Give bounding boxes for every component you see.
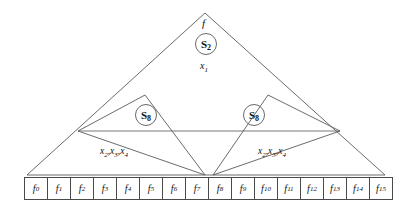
leaf-box: f6 <box>162 177 186 200</box>
root-variable-label: x1 <box>200 61 208 74</box>
leaf-label-subscript: 15 <box>379 185 386 193</box>
leaf-box: f10 <box>254 177 278 200</box>
leaf-label-subscript: 14 <box>356 185 363 193</box>
leaf-box: f2 <box>70 177 94 200</box>
leaf-box-row: f0f1f2f3f4f5f6f7f8f9f10f11f12f13f14f15 <box>24 177 392 200</box>
leaf-label-subscript: 8 <box>220 185 224 193</box>
leaf-label-subscript: 2 <box>82 185 86 193</box>
node-s8-right: S8 <box>243 104 265 126</box>
leaf-label-subscript: 11 <box>287 185 293 193</box>
leaf-box: f8 <box>208 177 232 200</box>
leaf-label-subscript: 10 <box>264 185 271 193</box>
leaf-box: f4 <box>116 177 140 200</box>
leaf-label-subscript: 6 <box>174 185 178 193</box>
leaf-box: f0 <box>24 177 48 200</box>
leaf-label-subscript: 3 <box>105 185 109 193</box>
leaf-box: f5 <box>139 177 163 200</box>
leaf-label-subscript: 9 <box>243 185 247 193</box>
node-s2: S2 <box>195 33 217 55</box>
leaf-label-subscript: 0 <box>36 185 40 193</box>
leaf-box: f12 <box>300 177 324 200</box>
leaf-box: f14 <box>346 177 370 200</box>
leaf-label-subscript: 1 <box>59 185 63 193</box>
node-s2-subscript: 2 <box>207 43 211 52</box>
leaf-label-subscript: 7 <box>197 185 201 193</box>
leaf-box: f9 <box>231 177 255 200</box>
node-s8-left-subscript: 8 <box>147 114 151 123</box>
leaf-label-subscript: 5 <box>151 185 155 193</box>
leaf-box: f15 <box>369 177 393 200</box>
diagram-canvas: f S2 x1 S8 S8 x2,x3,x4 x2,x3,x4 f0f1f2f3… <box>0 0 412 209</box>
leaf-box: f13 <box>323 177 347 200</box>
leaf-box: f7 <box>185 177 209 200</box>
node-s8-right-subscript: 8 <box>255 114 259 123</box>
right-var-3-sub: 4 <box>282 151 286 159</box>
left-var-3-sub: 4 <box>124 151 128 159</box>
left-subtree-variables: x2,x3,x4 <box>100 147 128 159</box>
root-variable-subscript: 1 <box>204 66 208 74</box>
right-subtree-variables: x2,x3,x4 <box>258 147 286 159</box>
right-inner-triangle <box>213 95 340 175</box>
leaf-box: f3 <box>93 177 117 200</box>
leaf-label-subscript: 12 <box>310 185 317 193</box>
leaf-box: f11 <box>277 177 301 200</box>
leaf-label-subscript: 13 <box>333 185 340 193</box>
leaf-box: f1 <box>47 177 71 200</box>
apex-function-label: f <box>202 18 205 29</box>
leaf-label-subscript: 4 <box>128 185 132 193</box>
node-s8-left: S8 <box>135 104 157 126</box>
